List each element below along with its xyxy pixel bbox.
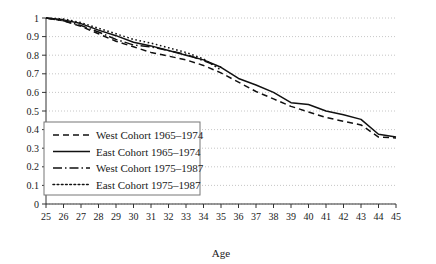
x-tick-label: 30 [129,211,139,222]
y-tick-label: 0.2 [27,161,40,172]
y-tick-label: 0.9 [27,31,40,42]
x-tick-label: 26 [59,211,69,222]
y-tick-label: 0.6 [27,87,40,98]
series-line-0 [46,18,396,138]
y-tick-label: 1 [34,13,39,24]
x-tick-labels: 2526272829303132333435363738394041424344… [41,211,401,222]
x-tick-label: 45 [391,211,401,222]
x-tick-label: 28 [94,211,104,222]
x-tick-label: 25 [41,211,51,222]
x-tick-label: 35 [216,211,226,222]
x-tick-label: 36 [234,211,244,222]
legend-label-2: West Cohort 1975–1987 [96,162,204,174]
chart-canvas: 00.10.20.30.40.50.60.70.80.91 2526272829… [0,0,436,264]
x-tick-label: 31 [146,211,156,222]
data-series [46,18,396,138]
x-tick-label: 40 [304,211,314,222]
series-line-1 [46,18,396,137]
y-tick-label: 0.1 [27,180,40,191]
x-tick-label: 32 [164,211,174,222]
x-tick-label: 44 [374,211,384,222]
x-tick-label: 39 [286,211,296,222]
x-tick-label: 33 [181,211,191,222]
x-tick-label: 38 [269,211,279,222]
x-tick-label: 29 [111,211,121,222]
legend-label-1: East Cohort 1965–1974 [96,146,201,158]
y-tick-label: 0 [34,199,39,210]
x-tick-label: 37 [251,211,261,222]
legend: West Cohort 1965–1974East Cohort 1965–19… [44,122,204,195]
y-tick-labels: 00.10.20.30.40.50.60.70.80.91 [27,13,40,210]
legend-label-3: East Cohort 1975–1987 [96,179,201,191]
x-tick-label: 43 [356,211,366,222]
x-axis-title: Age [212,247,230,259]
y-tick-label: 0.8 [27,50,40,61]
y-tick-label: 0.5 [27,106,40,117]
y-tick-label: 0.4 [27,124,40,135]
y-tick-label: 0.7 [27,68,40,79]
x-tick-label: 34 [199,211,209,222]
x-tick-label: 42 [339,211,349,222]
x-tick-label: 41 [321,211,331,222]
y-tick-label: 0.3 [27,143,40,154]
x-tick-label: 27 [76,211,86,222]
legend-label-0: West Cohort 1965–1974 [96,129,204,141]
chart-figure: 00.10.20.30.40.50.60.70.80.91 2526272829… [0,0,436,264]
